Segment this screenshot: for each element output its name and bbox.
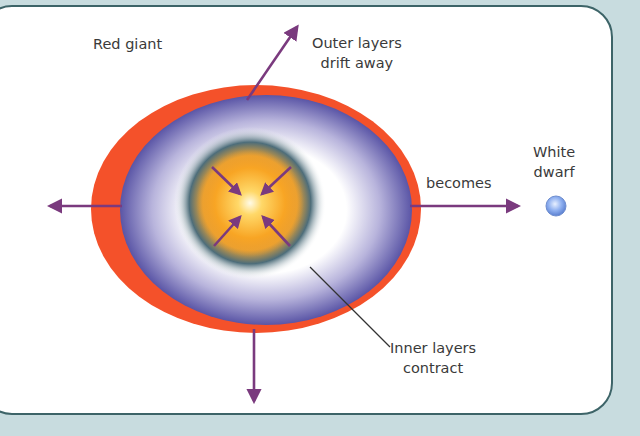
white-dwarf-line2: dwarf bbox=[533, 162, 575, 182]
stellar-core bbox=[196, 149, 304, 257]
outer-layers-label: Outer layers drift away bbox=[312, 33, 402, 73]
white-dwarf-label: White dwarf bbox=[533, 142, 575, 182]
white-dwarf-icon bbox=[546, 196, 566, 216]
white-dwarf-line1: White bbox=[533, 142, 575, 162]
outer-layers-line2: drift away bbox=[312, 53, 402, 73]
inner-layers-line1: Inner layers bbox=[390, 338, 476, 358]
inner-layers-line2: contract bbox=[390, 358, 476, 378]
outer-layers-line1: Outer layers bbox=[312, 33, 402, 53]
inner-layers-label: Inner layers contract bbox=[390, 338, 476, 378]
becomes-label: becomes bbox=[426, 173, 492, 193]
red-giant-label: Red giant bbox=[93, 34, 162, 54]
